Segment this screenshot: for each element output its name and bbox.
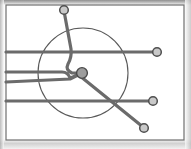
terminal-node-bottom-right[interactable]	[140, 124, 149, 133]
central-hub-node[interactable]	[77, 68, 88, 79]
diagram-canvas	[0, 0, 191, 149]
terminal-node-right-lower[interactable]	[149, 97, 158, 106]
scan-edge-right	[185, 0, 191, 149]
terminal-node-top[interactable]	[60, 6, 69, 15]
scan-edge-top	[0, 0, 191, 5]
terminal-node-right-upper[interactable]	[153, 48, 162, 57]
diagram-svg	[0, 0, 191, 149]
scan-edge-left	[0, 0, 4, 149]
